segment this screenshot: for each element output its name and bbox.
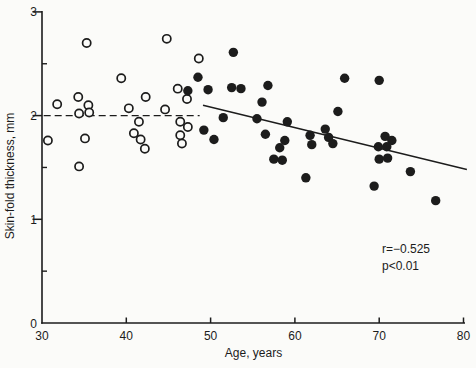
open-circle-marker [141,145,149,153]
filled-circle-marker [227,83,236,92]
open-circle-marker [163,35,171,43]
chart-canvas: 3040506070800123 [0,0,476,368]
filled-circle-marker [252,114,261,123]
y-tick-label: 1 [30,213,37,227]
y-tick-label: 3 [30,5,37,19]
open-circle-marker [142,93,150,101]
filled-circle-marker [278,155,287,164]
filled-circle-marker [209,135,218,144]
filled-circle-marker [263,81,272,90]
open-circle-marker [44,136,52,144]
p-value-text: p<0.01 [382,258,430,275]
filled-circle-marker [431,196,440,205]
filled-circle-marker [383,153,392,162]
filled-circle-marker [183,86,192,95]
filled-circle-marker [203,85,212,94]
x-tick-label: 60 [288,329,302,343]
scatter-plot-figure: 3040506070800123 Skin-fold thickness, mm… [0,0,476,368]
open-circle-marker [81,134,89,142]
open-circle-marker [176,118,184,126]
filled-circle-marker [382,142,391,151]
y-tick-label: 2 [30,109,37,123]
x-axis-title: Age, years [42,346,465,360]
filled-circle-marker [269,154,278,163]
filled-circle-marker [229,48,238,57]
open-circle-marker [75,109,83,117]
x-tick-label: 50 [204,329,218,343]
filled-circle-marker [406,167,415,176]
filled-circle-marker [340,74,349,83]
correlation-coefficient-text: r=−0.525 [382,241,430,258]
open-circle-marker [176,131,184,139]
open-circle-marker [195,54,203,62]
filled-circle-marker [305,131,314,140]
filled-circle-marker [261,130,270,139]
y-axis-title: Skin-fold thickness, mm [3,91,19,261]
open-circle-marker [174,85,182,93]
open-circle-marker [53,100,61,108]
open-circle-marker [183,95,191,103]
filled-circle-marker [193,73,202,82]
open-circle-marker [117,74,125,82]
filled-circle-marker [321,124,330,133]
open-circle-marker [125,104,133,112]
filled-circle-marker [333,107,342,116]
open-circle-marker [75,162,83,170]
filled-circle-marker [236,84,245,93]
filled-circle-marker [369,181,378,190]
open-circle-marker [74,93,82,101]
filled-circle-marker [375,154,384,163]
x-tick-label: 80 [457,329,471,343]
filled-circle-marker [275,143,284,152]
filled-circle-marker [307,140,316,149]
filled-circle-marker [301,173,310,182]
filled-circle-marker [219,113,228,122]
filled-circle-marker [257,97,266,106]
filled-circle-marker [375,76,384,85]
filled-circle-marker [374,142,383,151]
filled-circle-marker [199,125,208,134]
stats-annotation: r=−0.525 p<0.01 [382,241,430,275]
open-circle-marker [83,39,91,47]
y-tick-label: 0 [30,317,37,331]
filled-circle-marker [283,117,292,126]
open-circle-marker [161,105,169,113]
filled-circle-marker [328,139,337,148]
open-circle-marker [184,123,192,131]
open-circle-marker [178,139,186,147]
open-circle-marker [130,129,138,137]
x-tick-label: 40 [120,329,134,343]
open-circle-marker [135,118,143,126]
x-tick-label: 30 [35,329,49,343]
x-tick-label: 70 [373,329,387,343]
open-circle-marker [137,135,145,143]
open-circle-marker [85,108,93,116]
